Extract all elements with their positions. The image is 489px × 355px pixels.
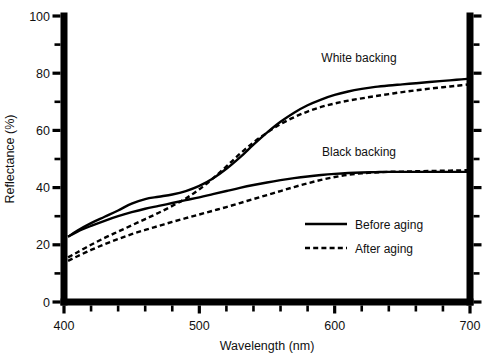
- x-axis-title: Wavelength (nm): [220, 339, 315, 353]
- x-tick-label-500: 500: [189, 319, 210, 333]
- x-tick-label-600: 600: [324, 319, 345, 333]
- y-axis-right-spine: [467, 13, 474, 306]
- y-tick-label-60: 60: [36, 124, 50, 138]
- y-tick-label-0: 0: [43, 296, 50, 310]
- y-tick-label-100: 100: [29, 10, 50, 24]
- legend-label-after-aging: After aging: [355, 242, 413, 256]
- y-axis-left-spine: [61, 13, 68, 306]
- black-backing-label: Black backing: [322, 145, 396, 159]
- x-tick-label-400: 400: [54, 319, 75, 333]
- y-tick-label-80: 80: [36, 67, 50, 81]
- reflectance-spectrum-chart: 020406080100400500600700Wavelength (nm)R…: [0, 0, 489, 355]
- x-axis-bottom-spine: [61, 299, 474, 306]
- y-tick-label-20: 20: [36, 238, 50, 252]
- figure-container: 020406080100400500600700Wavelength (nm)R…: [0, 0, 489, 355]
- y-tick-label-40: 40: [36, 181, 50, 195]
- x-tick-label-700: 700: [460, 319, 481, 333]
- legend-label-before-aging: Before aging: [355, 218, 423, 232]
- y-axis-title: Reflectance (%): [3, 115, 17, 204]
- white-backing-label: White backing: [321, 51, 396, 65]
